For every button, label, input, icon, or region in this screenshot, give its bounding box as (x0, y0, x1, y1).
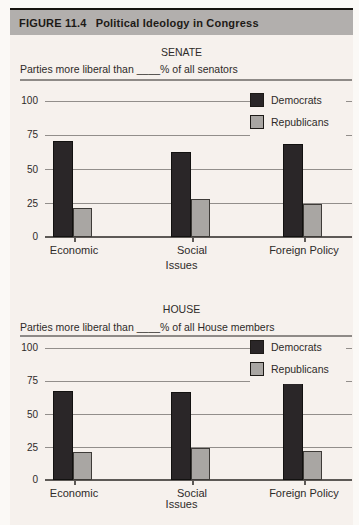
bar-republicans-social (191, 448, 210, 480)
x-tick-economic (74, 238, 76, 242)
bar-republicans-social (191, 199, 210, 237)
legend-item-republicans: Republicans (250, 115, 346, 129)
gridline-50 (45, 414, 352, 415)
legend-swatch-republicans (250, 362, 264, 376)
legend-label-democrats: Democrats (271, 341, 322, 353)
figure-header: FIGURE 11.4 Political Ideology in Congre… (10, 10, 353, 35)
legend-item-democrats: Democrats (250, 93, 346, 107)
senate-chart-subtitle: Parties more liberal than ____% of all s… (20, 63, 238, 75)
house-chart-subtitle: Parties more liberal than ____% of all H… (20, 321, 274, 333)
category-label-foreign-policy: Foreign Policy (249, 244, 359, 256)
y-tick-label-0: 0 (10, 230, 38, 243)
senate-plot-area: 0255075100EconomicSocialForeign PolicyDe… (10, 101, 353, 238)
x-tick-foreign-policy (304, 481, 306, 485)
legend-swatch-republicans (250, 115, 264, 129)
bar-republicans-foreign-policy (303, 204, 322, 237)
bar-republicans-economic (73, 208, 92, 237)
house-plot-area: 0255075100EconomicSocialForeign PolicyDe… (10, 348, 353, 481)
senate-x-axis-label: Issues (10, 259, 353, 271)
bar-republicans-foreign-policy (303, 451, 322, 480)
legend-label-democrats: Democrats (271, 94, 322, 106)
house-subtitle-rule (20, 335, 352, 337)
legend-label-republicans: Republicans (271, 363, 329, 375)
bar-democrats-foreign-policy (283, 383, 303, 480)
legend-swatch-democrats (250, 93, 264, 107)
x-tick-foreign-policy (304, 238, 306, 242)
legend: DemocratsRepublicans (250, 339, 346, 384)
category-label-economic: Economic (19, 244, 129, 256)
y-tick-label-50: 50 (10, 163, 38, 176)
bar-democrats-economic (53, 141, 73, 237)
y-tick-label-75: 75 (10, 128, 38, 141)
house-chart-title: HOUSE (10, 303, 353, 315)
y-tick-label-75: 75 (10, 374, 38, 387)
y-tick-label-50: 50 (10, 408, 38, 421)
y-tick-label-25: 25 (10, 441, 38, 454)
figure-number: FIGURE 11.4 (19, 17, 87, 29)
legend: DemocratsRepublicans (250, 92, 346, 137)
bar-democrats-social (171, 152, 191, 237)
x-tick-economic (74, 481, 76, 485)
legend-label-republicans: Republicans (271, 116, 329, 128)
bar-democrats-foreign-policy (283, 144, 303, 237)
figure-panel: FIGURE 11.4 Political Ideology in Congre… (10, 8, 353, 525)
senate-chart-title: SENATE (10, 46, 353, 58)
category-label-social: Social (137, 244, 247, 256)
legend-item-democrats: Democrats (250, 340, 346, 354)
x-tick-social (192, 481, 194, 485)
legend-item-republicans: Republicans (250, 362, 346, 376)
x-tick-social (192, 238, 194, 242)
y-tick-label-25: 25 (10, 197, 38, 210)
y-tick-label-100: 100 (10, 94, 38, 107)
legend-swatch-democrats (250, 340, 264, 354)
y-tick-label-0: 0 (10, 473, 38, 486)
gridline-50 (45, 169, 352, 170)
senate-subtitle-rule (20, 79, 352, 81)
figure-title: Political Ideology in Congress (96, 17, 259, 29)
y-tick-label-100: 100 (10, 341, 38, 354)
bar-democrats-economic (53, 391, 73, 480)
bar-republicans-economic (73, 452, 92, 480)
bar-democrats-social (171, 392, 191, 480)
house-x-axis-label: Issues (10, 498, 353, 510)
